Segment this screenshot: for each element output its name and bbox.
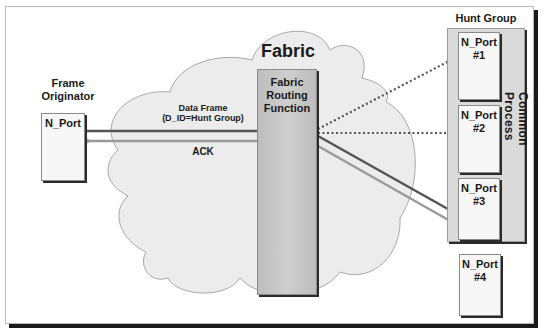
hunt-port-1: N_Port #1 bbox=[458, 32, 500, 100]
fabric-title: Fabric bbox=[258, 41, 318, 62]
port-3-line-2: #3 bbox=[459, 195, 499, 208]
router-label-line-3: Function bbox=[258, 102, 316, 115]
hunt-port-2: N_Port #2 bbox=[458, 105, 500, 173]
hunt-group-title: Hunt Group bbox=[446, 12, 526, 25]
common-process-label: Common Process bbox=[508, 92, 524, 192]
originator-title: Frame Originator bbox=[28, 77, 108, 102]
router-label-line-2: Routing bbox=[258, 89, 316, 102]
ack-label: ACK bbox=[180, 146, 226, 158]
port-2-line-1: N_Port bbox=[459, 109, 499, 122]
originator-n-port: N_Port bbox=[41, 113, 85, 181]
router-label-line-1: Fabric bbox=[258, 76, 316, 89]
port-1-line-2: #1 bbox=[459, 49, 499, 62]
data-frame-label-line-1: Data Frame bbox=[148, 103, 258, 113]
port-2-line-2: #2 bbox=[459, 122, 499, 135]
hunt-port-4: N_Port #4 bbox=[459, 254, 501, 316]
data-frame-label-line-2: (D_ID=Hunt Group) bbox=[148, 113, 258, 123]
port-4-line-2: #4 bbox=[460, 271, 500, 284]
fabric-routing-function: Fabric Routing Function bbox=[257, 69, 317, 295]
originator-title-line-2: Originator bbox=[28, 90, 108, 103]
originator-title-line-1: Frame bbox=[28, 77, 108, 90]
port-1-line-1: N_Port bbox=[459, 36, 499, 49]
port-4-line-1: N_Port bbox=[460, 258, 500, 271]
originator-port-label: N_Port bbox=[42, 117, 84, 130]
port-3-line-1: N_Port bbox=[459, 182, 499, 195]
data-frame-label: Data Frame (D_ID=Hunt Group) bbox=[148, 103, 258, 124]
hunt-port-3: N_Port #3 bbox=[458, 178, 500, 240]
